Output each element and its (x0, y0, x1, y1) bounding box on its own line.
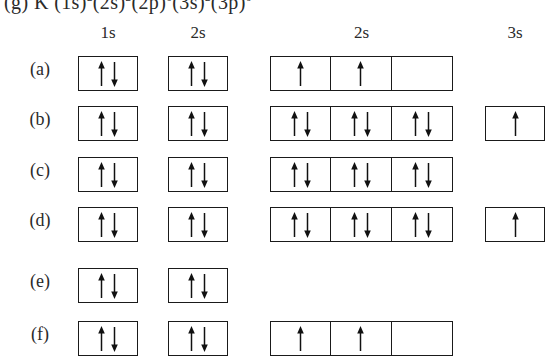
electron-configuration-line: (g) K (1s)2(2s)2(2p)6(3s)2(3p)6 (4, 0, 252, 14)
orbital-box-2p-1[interactable] (271, 57, 331, 90)
electron-pair (271, 158, 330, 191)
orbital-box-2p-1[interactable] (271, 158, 331, 191)
orbital-box-1s[interactable] (78, 321, 138, 356)
row-label-row-e: (e) (12, 271, 68, 292)
orbital-box-1s[interactable] (78, 56, 138, 91)
orbital-box-1s[interactable] (78, 106, 138, 141)
orbital-box-2s[interactable] (168, 207, 228, 242)
spin-up-arrow (187, 111, 196, 137)
spin-up-arrow (187, 212, 196, 238)
orbital-group-2p (270, 321, 453, 356)
row-c: (c) (0, 152, 552, 202)
row-label-row-a: (a) (12, 59, 68, 80)
electron-pair (169, 57, 227, 90)
orbital-group-2p (270, 157, 453, 192)
electron-pair (79, 322, 137, 355)
electron-pair (169, 269, 227, 302)
row-d: (d) (0, 202, 552, 252)
spin-up-arrow (350, 212, 359, 238)
orbital-box-2p-3[interactable] (392, 107, 452, 140)
orbital-group-2p (270, 56, 453, 91)
spin-up-arrow (187, 162, 196, 188)
orbital-box-2p-2[interactable] (331, 158, 391, 191)
spin-up-arrow (187, 61, 196, 87)
empty-orbital (392, 322, 452, 355)
spin-down-arrow (303, 212, 312, 238)
orbital-box-2s[interactable] (168, 157, 228, 192)
orbital-box-2p-2[interactable] (331, 107, 391, 140)
row-e: (e) (0, 263, 552, 313)
electron-pair (169, 107, 227, 140)
electron-pair (331, 107, 390, 140)
electron-pair (331, 158, 390, 191)
spin-up-arrow (411, 162, 420, 188)
orbital-box-2p-3[interactable] (392, 208, 452, 241)
orbital-box-2s[interactable] (168, 268, 228, 303)
electron-pair (169, 158, 227, 191)
electron-pair (79, 208, 137, 241)
spin-down-arrow (363, 111, 372, 137)
spin-up-arrow (511, 212, 520, 238)
spin-up-arrow (290, 212, 299, 238)
spin-up-arrow (296, 61, 305, 87)
orbital-box-3s[interactable] (485, 207, 545, 242)
orbital-box-2p-1[interactable] (271, 208, 331, 241)
electron-spin-up (486, 208, 544, 241)
electron-spin-up (271, 57, 330, 90)
spin-up-arrow (290, 111, 299, 137)
orbital-box-2s[interactable] (168, 106, 228, 141)
empty-orbital (392, 57, 452, 90)
spin-down-arrow (110, 273, 119, 299)
orbital-box-2p-2[interactable] (331, 57, 391, 90)
spin-down-arrow (110, 326, 119, 352)
orbital-box-2p-2[interactable] (331, 208, 391, 241)
spin-down-arrow (200, 273, 209, 299)
column-header-col-3s: 3s (485, 23, 545, 43)
spin-up-arrow (350, 162, 359, 188)
spin-up-arrow (296, 326, 305, 352)
orbital-box-1s[interactable] (78, 207, 138, 242)
orbital-box-3s[interactable] (485, 106, 545, 141)
orbital-box-2p-3[interactable] (392, 57, 452, 90)
spin-down-arrow (200, 326, 209, 352)
spin-up-arrow (411, 111, 420, 137)
electron-pair (169, 322, 227, 355)
electron-pair (392, 158, 452, 191)
orbital-box-2p-2[interactable] (331, 322, 391, 355)
spin-up-arrow (187, 273, 196, 299)
orbital-box-2s[interactable] (168, 56, 228, 91)
electron-pair (392, 107, 452, 140)
electron-pair (331, 208, 390, 241)
row-label-row-b: (b) (12, 109, 68, 130)
orbital-box-2p-3[interactable] (392, 322, 452, 355)
spin-down-arrow (200, 61, 209, 87)
spin-down-arrow (110, 61, 119, 87)
spin-up-arrow (97, 162, 106, 188)
orbital-box-2p-1[interactable] (271, 322, 331, 355)
spin-up-arrow (97, 273, 106, 299)
spin-up-arrow (97, 212, 106, 238)
orbital-box-2s[interactable] (168, 321, 228, 356)
orbital-box-2p-1[interactable] (271, 107, 331, 140)
spin-down-arrow (303, 111, 312, 137)
electron-pair (79, 269, 137, 302)
spin-up-arrow (511, 111, 520, 137)
row-b: (b) (0, 101, 552, 151)
orbital-box-1s[interactable] (78, 157, 138, 192)
spin-down-arrow (303, 162, 312, 188)
electron-pair (79, 57, 137, 90)
spin-up-arrow (350, 111, 359, 137)
spin-down-arrow (200, 212, 209, 238)
spin-up-arrow (97, 326, 106, 352)
spin-down-arrow (110, 212, 119, 238)
orbital-box-2p-3[interactable] (392, 158, 452, 191)
spin-up-arrow (411, 212, 420, 238)
orbital-box-1s[interactable] (78, 268, 138, 303)
spin-up-arrow (97, 111, 106, 137)
spin-down-arrow (110, 162, 119, 188)
row-label-row-d: (d) (12, 210, 68, 231)
electron-spin-up (486, 107, 544, 140)
column-header-col-2p: 2s (270, 23, 453, 43)
electron-pair (79, 158, 137, 191)
spin-down-arrow (424, 212, 433, 238)
